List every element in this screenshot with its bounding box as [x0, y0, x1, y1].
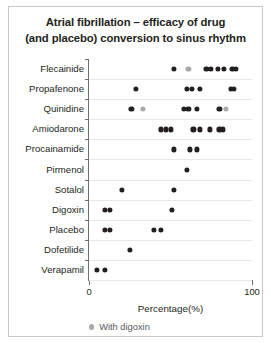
data-point-with-digoxin	[223, 107, 228, 112]
data-point	[158, 227, 163, 232]
gridline	[89, 200, 252, 201]
y-axis-label-pirmenol: Pirmenol	[46, 165, 84, 175]
y-axis-labels: FlecainidePropafenoneQuinidineAmiodarone…	[0, 59, 84, 280]
data-point	[186, 107, 191, 112]
data-point	[189, 87, 194, 92]
x-axis-tick	[89, 281, 90, 285]
data-point	[152, 227, 157, 232]
data-point	[222, 66, 227, 71]
gridline	[89, 79, 252, 80]
data-point	[95, 267, 100, 272]
data-point	[171, 147, 176, 152]
y-axis-tick	[85, 180, 89, 181]
legend-label-with-digoxin: With digoxin	[99, 322, 150, 332]
data-point	[209, 66, 214, 71]
data-point	[233, 66, 238, 71]
data-point	[194, 147, 199, 152]
data-point	[108, 227, 113, 232]
data-point	[187, 147, 192, 152]
chart-figure: Atrial fibrillation – efficacy of drug (…	[0, 0, 271, 343]
y-axis-tick	[85, 139, 89, 140]
legend-marker-with-digoxin	[89, 324, 94, 329]
y-axis-label-dofetilide: Dofetilide	[44, 245, 84, 255]
data-point	[220, 127, 225, 132]
y-axis-tick	[85, 119, 89, 120]
y-axis-tick	[85, 200, 89, 201]
gridline	[89, 260, 252, 261]
gridline	[89, 180, 252, 181]
gridline	[89, 119, 252, 120]
gridline	[89, 220, 252, 221]
data-point	[217, 107, 222, 112]
gridline	[89, 159, 252, 160]
data-point	[103, 267, 108, 272]
data-point	[231, 87, 236, 92]
plot-area	[89, 59, 252, 280]
y-axis-tick	[85, 240, 89, 241]
data-point	[171, 187, 176, 192]
y-axis-label-flecainide: Flecainide	[40, 64, 84, 74]
data-point-with-digoxin	[140, 107, 145, 112]
data-point	[197, 87, 202, 92]
y-axis-tick	[85, 260, 89, 261]
data-point	[197, 127, 202, 132]
data-point	[127, 247, 132, 252]
chart-title-line-1: Atrial fibrillation – efficacy of drug	[8, 14, 263, 30]
gridline	[89, 240, 252, 241]
y-axis-label-placebo: Placebo	[49, 225, 84, 235]
data-point	[170, 207, 175, 212]
data-point	[207, 127, 212, 132]
gridline	[89, 139, 252, 140]
data-point	[184, 167, 189, 172]
data-point	[129, 107, 134, 112]
data-point	[168, 127, 173, 132]
y-axis-label-verapamil: Verapamil	[41, 265, 84, 275]
y-axis-label-digoxin: Digoxin	[52, 205, 84, 215]
data-point-with-digoxin	[186, 66, 191, 71]
data-point	[119, 187, 124, 192]
gridline	[89, 280, 252, 281]
y-axis-label-propafenone: Propafenone	[29, 84, 84, 94]
chart-title-line-2: (and placebo) conversion to sinus rhythm	[8, 30, 263, 46]
data-point	[215, 66, 220, 71]
y-axis-label-procainamide: Procainamide	[25, 144, 84, 154]
y-axis-tick	[85, 159, 89, 160]
x-axis-tick-label: 100	[244, 286, 260, 297]
x-axis-tick	[252, 281, 253, 285]
data-point	[194, 107, 199, 112]
data-point	[108, 207, 113, 212]
x-axis-title: Percentage(%)	[89, 303, 252, 314]
data-point	[191, 127, 196, 132]
chart-legend: With digoxin	[89, 322, 150, 332]
x-axis-tick-label: 0	[86, 286, 91, 297]
y-axis-label-quinidine: Quinidine	[43, 104, 84, 114]
y-axis-tick	[85, 99, 89, 100]
y-axis-tick	[85, 220, 89, 221]
data-point	[171, 66, 176, 71]
y-axis-label-amiodarone: Amiodarone	[32, 124, 84, 134]
data-point	[134, 87, 139, 92]
chart-title: Atrial fibrillation – efficacy of drug (…	[8, 14, 263, 46]
gridline	[89, 99, 252, 100]
y-axis-tick	[85, 59, 89, 60]
y-axis-tick	[85, 79, 89, 80]
y-axis-label-sotalol: Sotalol	[55, 185, 84, 195]
